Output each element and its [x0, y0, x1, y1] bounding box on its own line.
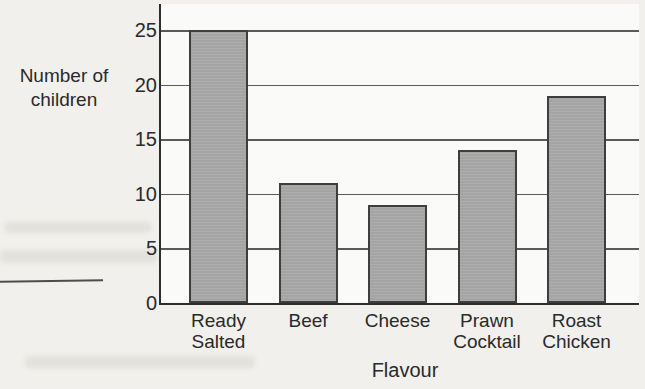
x-category-label-line: Cocktail — [439, 331, 535, 352]
y-tick-label-25: 25 — [113, 19, 157, 41]
x-category-label-cheese: Cheese — [350, 310, 446, 331]
y-axis-line — [159, 4, 161, 305]
answer-line-rule — [0, 279, 103, 282]
x-category-label-line: Chicken — [529, 331, 625, 352]
x-category-label-line: Salted — [171, 331, 267, 352]
x-category-label-line: Beef — [260, 310, 356, 331]
x-category-label-ready-salted: ReadySalted — [171, 310, 267, 352]
x-category-label-line: Roast — [529, 310, 625, 331]
x-category-label-line: Ready — [171, 310, 267, 331]
y-axis-title: Number of children — [0, 64, 128, 112]
y-axis-title-line2: children — [0, 88, 128, 112]
x-category-label-roast-chicken: RoastChicken — [529, 310, 625, 352]
y-tick-label-5: 5 — [113, 237, 157, 259]
x-category-label-prawn-cocktail: PrawnCocktail — [439, 310, 535, 352]
x-axis-title: Flavour — [345, 359, 465, 382]
x-category-label-beef: Beef — [260, 310, 356, 331]
x-category-label-line: Cheese — [350, 310, 446, 331]
x-axis-line — [159, 303, 639, 305]
y-tick-label-15: 15 — [113, 128, 157, 150]
bar-prawn-cocktail — [458, 150, 517, 303]
bar-cheese — [368, 205, 427, 303]
bar-roast-chicken — [547, 96, 606, 303]
x-category-label-line: Prawn — [439, 310, 535, 331]
bleed-through-smudge — [4, 222, 152, 233]
y-tick-label-0: 0 — [113, 292, 157, 314]
y-tick-label-20: 20 — [113, 74, 157, 96]
bar-ready-salted — [189, 30, 248, 303]
scanned-worksheet-page: Number of children Flavour 0510152025Rea… — [0, 0, 645, 389]
y-tick-label-10: 10 — [113, 183, 157, 205]
y-axis-title-line1: Number of — [0, 64, 128, 88]
bleed-through-smudge — [25, 356, 255, 368]
bar-beef — [279, 183, 338, 303]
